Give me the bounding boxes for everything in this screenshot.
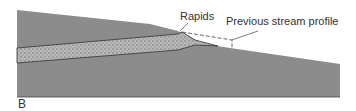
rapids-label: Rapids bbox=[180, 10, 214, 22]
profile-leader bbox=[232, 31, 258, 40]
rapids-leader bbox=[180, 23, 188, 31]
panel-label: B bbox=[18, 97, 26, 111]
previous-profile-label: Previous stream profile bbox=[226, 15, 339, 27]
